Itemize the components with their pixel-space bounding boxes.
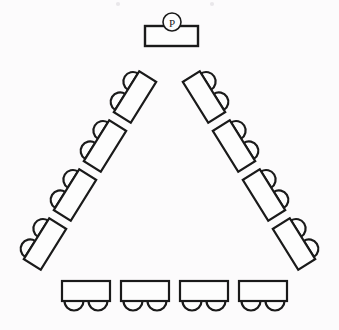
scan-speck-2 [210,2,214,6]
left-arm-group [16,66,156,269]
right-desk-2[interactable] [213,115,263,171]
scan-artifact-layer [116,2,214,6]
desk-surface[interactable] [121,281,169,301]
bottom-desk-4[interactable] [239,281,287,311]
right-desk-4[interactable] [273,213,323,269]
classroom-seating-diagram: P [0,0,339,330]
left-desk-2[interactable] [76,115,126,171]
seat-2[interactable] [266,301,285,311]
seat-1[interactable] [124,301,143,311]
right-arm-group [183,66,323,269]
left-desk-4[interactable] [16,213,66,269]
seat-2[interactable] [207,301,226,311]
seating-diagram-svg: P [0,0,339,330]
presenter-table-group[interactable]: P [145,13,198,46]
left-desk-3[interactable] [46,164,96,220]
seat-2[interactable] [148,301,167,311]
presenter-marker-label: P [169,17,175,29]
bottom-desk-1[interactable] [62,281,110,311]
desk-surface[interactable] [62,281,110,301]
bottom-desk-2[interactable] [121,281,169,311]
scan-speck-1 [116,2,120,6]
bottom-row-group [62,281,287,311]
seat-1[interactable] [242,301,261,311]
seat-2[interactable] [89,301,108,311]
left-desk-1[interactable] [106,66,156,122]
desk-surface[interactable] [180,281,228,301]
seat-1[interactable] [183,301,202,311]
right-desk-3[interactable] [243,164,293,220]
bottom-desk-3[interactable] [180,281,228,311]
seat-1[interactable] [65,301,84,311]
right-desk-1[interactable] [183,66,233,122]
desk-surface[interactable] [239,281,287,301]
